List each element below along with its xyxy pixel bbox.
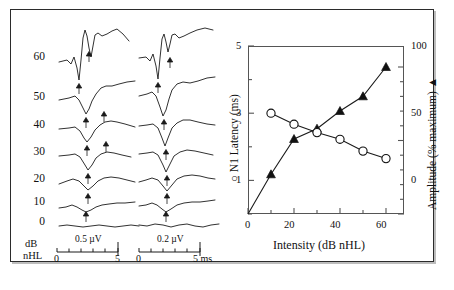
db-axis-label: dB bbox=[25, 238, 37, 249]
intensity-label-10: 10 bbox=[19, 195, 45, 207]
y-right-tick-0: 0 bbox=[411, 174, 416, 185]
nhl-axis-label: nHL bbox=[23, 250, 42, 261]
y-left-tick-5: 5 bbox=[236, 40, 241, 51]
time-end-right: 5 ms bbox=[193, 253, 212, 264]
y-left-ticks bbox=[248, 46, 254, 214]
x-ticks bbox=[248, 208, 386, 214]
intensity-label-20: 20 bbox=[19, 172, 45, 184]
series-n1-latency bbox=[267, 109, 390, 163]
y-left-tick-3: 3 bbox=[236, 107, 241, 118]
y-right-tick-100: 100 bbox=[411, 40, 427, 51]
y-right-marker-glyph: ▲ bbox=[426, 77, 438, 88]
waveform-traces-column-left bbox=[57, 24, 141, 229]
x-tick-0: 0 bbox=[245, 219, 250, 230]
y-right-tick-50: 50 bbox=[411, 107, 422, 118]
intensity-label-50: 50 bbox=[19, 90, 45, 102]
y-left-axis-text: N1 Latency (ms) bbox=[228, 94, 240, 172]
intensity-label-0: 0 bbox=[19, 215, 45, 227]
y-left-tick-1: 1 bbox=[236, 174, 241, 185]
x-axis-title: Intensity (dB nHL) bbox=[273, 238, 365, 253]
waveform-panel: 60 50 40 30 20 10 0 bbox=[11, 10, 233, 263]
y-right-axis-title: Amplitude (% maximum) ▲ bbox=[426, 77, 438, 210]
series-amplitude bbox=[248, 63, 390, 215]
intensity-function-chart: ○ N1 Latency (ms) Amplitude (% maximum) … bbox=[216, 10, 435, 263]
time-start-left: 0 bbox=[54, 253, 59, 264]
intensity-label-30: 30 bbox=[19, 145, 45, 157]
time-end-left: 5 bbox=[115, 253, 120, 264]
y-right-ticks bbox=[398, 67, 404, 214]
intensity-label-60: 60 bbox=[19, 50, 45, 62]
figure-frame: 60 50 40 30 20 10 0 bbox=[10, 9, 434, 262]
intensity-label-40: 40 bbox=[19, 118, 45, 130]
y-right-axis-text: Amplitude (% maximum) bbox=[426, 91, 438, 210]
x-tick-60: 60 bbox=[376, 219, 387, 230]
x-tick-40: 40 bbox=[330, 219, 341, 230]
plot-area bbox=[248, 46, 408, 216]
x-tick-20: 20 bbox=[284, 219, 295, 230]
time-start-right: 0 bbox=[136, 253, 141, 264]
waveform-traces-column-right bbox=[137, 24, 221, 229]
